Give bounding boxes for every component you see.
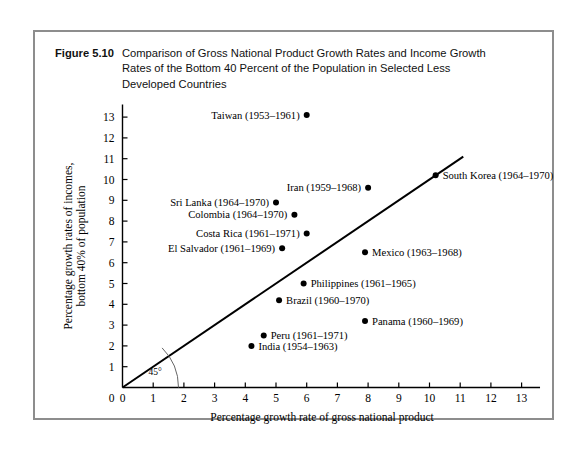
y-tick-label: 7	[109, 236, 115, 248]
caption-line-1: Comparison of Gross National Product Gro…	[122, 47, 486, 59]
data-point-label: South Korea (1964–1970)	[443, 170, 554, 182]
data-point[interactable]	[362, 318, 368, 324]
figure-frame: Figure 5.10 Comparison of Gross National…	[33, 30, 554, 420]
y-tick-label: 2	[109, 340, 115, 352]
x-tick-label: 10	[424, 392, 436, 404]
x-tick-label: 1	[150, 392, 156, 404]
data-point-label: Taiwan (1953–1961)	[211, 110, 300, 122]
data-point[interactable]	[433, 172, 439, 178]
data-point[interactable]	[248, 343, 254, 349]
data-point-label: Panama (1960–1969)	[372, 316, 463, 328]
data-point-label: Costa Rica (1961–1971)	[196, 228, 300, 240]
x-tick-label: 4	[242, 392, 248, 404]
data-point-label: El Salvador (1961–1969)	[168, 243, 276, 255]
data-point[interactable]	[304, 112, 310, 118]
data-point-label: Sri Lanka (1964–1970)	[170, 197, 269, 209]
y-tick-label: 3	[109, 319, 115, 331]
x-axis-title: Percentage growth rate of gross national…	[210, 411, 434, 424]
y-tick-label: 1	[109, 361, 115, 373]
y-tick-label: 4	[109, 298, 115, 310]
y-tick-label: 9	[109, 194, 115, 206]
data-point[interactable]	[301, 281, 307, 287]
x-tick-label: 0	[120, 392, 126, 404]
figure-caption: Figure 5.10 Comparison of Gross National…	[55, 46, 533, 92]
data-point-label: Iran (1959–1968)	[287, 182, 362, 194]
y-tick-label: 8	[109, 215, 115, 227]
y-tick-label: 5	[109, 278, 115, 290]
y-tick-label: 10	[103, 174, 115, 186]
caption-line-3: Developed Countries	[122, 78, 226, 90]
x-tick-label: 7	[335, 392, 341, 404]
data-point-label: Brazil (1960–1970)	[286, 295, 370, 307]
reference-line-45deg	[123, 157, 464, 388]
x-tick-label: 2	[181, 392, 187, 404]
x-tick-label: 5	[273, 392, 279, 404]
figure-screenshot: Figure 5.10 Comparison of Gross National…	[0, 0, 587, 451]
angle-arc	[162, 348, 178, 388]
data-point[interactable]	[261, 333, 267, 339]
data-point[interactable]	[362, 249, 368, 255]
data-point[interactable]	[273, 199, 279, 205]
data-point-label: Mexico (1963–1968)	[372, 247, 462, 259]
x-tick-label: 8	[365, 392, 371, 404]
x-tick-label: 6	[304, 392, 310, 404]
caption-line-2: Rates of the Bottom 40 Percent of the Po…	[122, 62, 450, 74]
data-point[interactable]	[291, 212, 297, 218]
data-point-label: Peru (1961–1971)	[271, 330, 348, 342]
x-tick-label: 11	[455, 392, 466, 404]
data-point-label: Philippines (1961–1965)	[311, 278, 417, 290]
data-point[interactable]	[279, 245, 285, 251]
x-tick-label: 9	[396, 392, 402, 404]
data-point-label: India (1954–1963)	[258, 341, 338, 353]
y-tick-label: 12	[103, 132, 115, 144]
y-axis-title-line-2: bottom 40% of population	[75, 185, 88, 306]
y-tick-label: 13	[103, 111, 115, 123]
y-tick-label: 0	[109, 392, 115, 404]
y-axis-title-line-1: Percentage growth rates of incomes,	[62, 162, 75, 329]
y-tick-label: 11	[103, 153, 114, 165]
data-point-label: Colombia (1964–1970)	[188, 209, 288, 221]
data-point[interactable]	[304, 231, 310, 237]
x-tick-label: 13	[516, 392, 528, 404]
angle-label-45: 45°	[149, 367, 163, 377]
x-tick-label: 12	[485, 392, 497, 404]
figure-number: Figure 5.10	[55, 47, 114, 59]
data-point[interactable]	[365, 185, 371, 191]
x-tick-label: 3	[212, 392, 218, 404]
y-tick-label: 6	[109, 257, 115, 269]
data-point[interactable]	[276, 297, 282, 303]
